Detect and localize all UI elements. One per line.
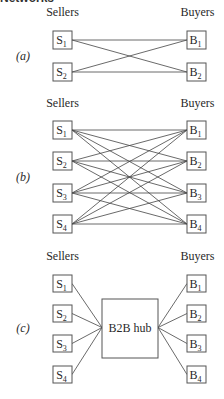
seller-node: S2 <box>53 305 72 323</box>
seller-node: S1 <box>53 31 72 49</box>
sellers-header: Sellers <box>46 5 79 19</box>
buyers-header: Buyers <box>181 249 215 263</box>
b2b-hub-label: B2B hub <box>108 321 151 335</box>
panel-c: (c)SellersBuyersB2B hubS1S2S3S4B1B2B3B4 <box>16 249 214 384</box>
sellers-header: Sellers <box>46 249 79 263</box>
buyer-node: B1 <box>187 275 206 293</box>
buyer-node: B2 <box>187 152 206 170</box>
panel-label: (b) <box>16 170 30 184</box>
panel-b: (b)SellersBuyersS1S2S3S4B1B2B3B4 <box>16 96 215 233</box>
sellers-header: Sellers <box>46 96 79 110</box>
network-diagram: (a)SellersBuyersS1S2B1B2(b)SellersBuyers… <box>0 0 224 399</box>
seller-node: S3 <box>53 184 72 202</box>
seller-node: S3 <box>53 335 72 353</box>
buyer-node: B4 <box>187 215 206 233</box>
buyer-node: B3 <box>187 335 206 353</box>
seller-node: S4 <box>53 366 72 384</box>
buyer-node: B4 <box>187 366 206 384</box>
seller-node: S2 <box>53 63 72 81</box>
buyer-node: B3 <box>187 184 206 202</box>
seller-node: S1 <box>53 121 72 139</box>
buyer-node: B2 <box>187 305 206 323</box>
connection-line <box>72 328 102 375</box>
panel-a: (a)SellersBuyersS1S2B1B2 <box>16 5 215 81</box>
buyer-node: B1 <box>187 31 206 49</box>
seller-node: S2 <box>53 152 72 170</box>
panel-label: (c) <box>16 321 29 335</box>
buyers-header: Buyers <box>181 5 215 19</box>
seller-node: S4 <box>53 215 72 233</box>
buyer-node: B1 <box>187 121 206 139</box>
connection-line <box>72 328 102 344</box>
connection-line <box>158 328 187 375</box>
buyers-header: Buyers <box>181 96 215 110</box>
connection-line <box>158 328 187 344</box>
buyer-node: B2 <box>187 63 206 81</box>
panel-label: (a) <box>16 49 30 63</box>
seller-node: S1 <box>53 275 72 293</box>
